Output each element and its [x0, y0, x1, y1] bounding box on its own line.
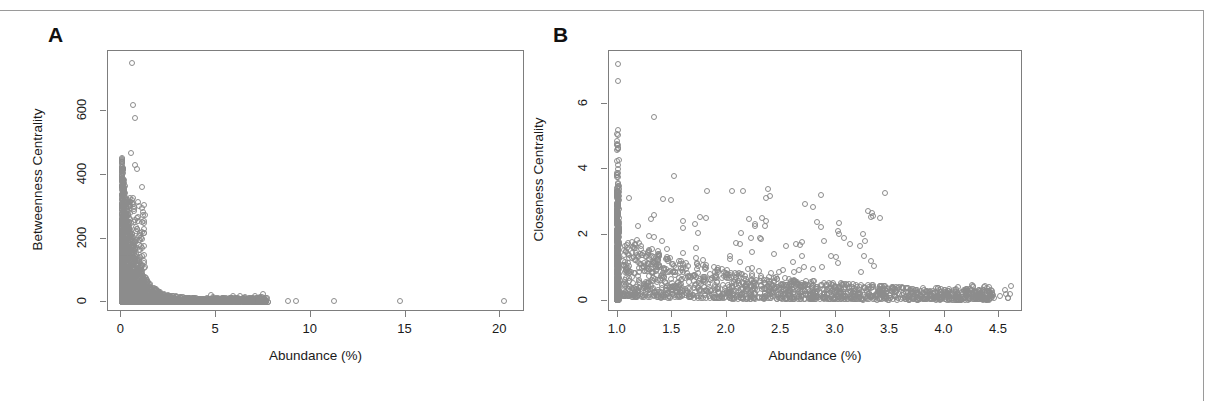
panel-b-y-axis-title: Closeness Centrality	[531, 49, 546, 310]
data-point	[669, 261, 675, 267]
data-point	[240, 296, 246, 302]
data-point	[222, 299, 228, 305]
x-tick-label: 10	[280, 321, 340, 336]
data-point	[122, 259, 128, 265]
data-point	[501, 298, 507, 304]
data-point	[265, 299, 271, 305]
data-point	[615, 174, 621, 180]
data-point	[740, 188, 746, 194]
x-tickmark	[998, 311, 999, 317]
data-point	[685, 263, 691, 269]
y-tick-label: 0	[74, 287, 89, 315]
data-point	[119, 268, 125, 274]
data-point	[676, 275, 682, 281]
data-point	[128, 150, 134, 156]
data-point	[780, 287, 786, 293]
data-point	[789, 296, 795, 302]
data-point	[797, 296, 803, 302]
data-point	[771, 251, 777, 257]
data-point	[701, 284, 707, 290]
data-point	[914, 290, 920, 296]
data-point	[615, 78, 621, 84]
x-tick-label: 0	[90, 321, 150, 336]
data-point	[955, 290, 961, 296]
data-point	[860, 297, 866, 303]
data-point	[141, 230, 147, 236]
data-point	[953, 295, 959, 301]
data-point	[861, 253, 867, 259]
data-point	[679, 293, 685, 299]
x-tickmark	[944, 311, 945, 317]
data-point	[134, 166, 140, 172]
data-point	[635, 223, 641, 229]
data-point	[662, 279, 668, 285]
y-tickmark	[601, 300, 607, 301]
data-point	[135, 297, 141, 303]
y-tick-label: 400	[74, 160, 89, 188]
data-point	[876, 289, 882, 295]
x-tick-label: 4.5	[968, 321, 1028, 336]
x-tickmark	[780, 311, 781, 317]
data-point	[132, 115, 138, 121]
data-point	[759, 215, 765, 221]
y-tick-label: 4	[575, 154, 590, 182]
data-point	[799, 253, 805, 259]
data-point	[727, 293, 733, 299]
data-point	[801, 264, 807, 270]
data-point	[664, 246, 670, 252]
data-point	[397, 298, 403, 304]
y-tickmark	[100, 174, 106, 175]
data-point	[841, 235, 847, 241]
data-point	[660, 196, 666, 202]
x-tick-label: 1.5	[641, 321, 701, 336]
data-point	[858, 269, 864, 275]
x-tick-label: 2.0	[696, 321, 756, 336]
data-point	[860, 231, 866, 237]
data-point	[614, 268, 620, 274]
data-point	[695, 284, 701, 290]
data-point	[745, 266, 751, 272]
figure-top-border	[0, 10, 1204, 11]
y-tickmark	[100, 238, 106, 239]
data-point	[833, 254, 839, 260]
data-point	[793, 241, 799, 247]
data-point	[828, 285, 834, 291]
data-point	[783, 243, 789, 249]
x-tick-label: 4.0	[914, 321, 974, 336]
data-point	[680, 225, 686, 231]
data-point	[673, 283, 679, 289]
y-tick-label: 6	[575, 88, 590, 116]
data-point	[748, 235, 754, 241]
data-point	[746, 216, 752, 222]
data-point	[136, 255, 142, 261]
data-point	[857, 291, 863, 297]
data-point	[714, 279, 720, 285]
data-point	[131, 208, 137, 214]
data-point	[780, 281, 786, 287]
data-point	[702, 274, 708, 280]
data-point	[680, 218, 686, 224]
data-point	[331, 298, 337, 304]
data-point	[626, 195, 632, 201]
data-point	[632, 294, 638, 300]
data-point	[780, 267, 786, 273]
data-point	[615, 202, 621, 208]
data-point	[659, 238, 665, 244]
data-point	[997, 293, 1003, 299]
data-point	[984, 285, 990, 291]
data-point	[743, 276, 749, 282]
data-point	[819, 264, 825, 270]
panel-b-x-axis-title: Abundance (%)	[608, 348, 1022, 363]
data-point	[988, 293, 994, 299]
data-point	[129, 60, 135, 66]
figure-right-border	[1203, 10, 1204, 401]
x-tickmark	[889, 311, 890, 317]
data-point	[979, 294, 985, 300]
data-point	[636, 269, 642, 275]
data-point	[868, 258, 874, 264]
data-point	[615, 146, 621, 152]
x-tick-label: 5	[185, 321, 245, 336]
data-point	[836, 220, 842, 226]
data-point	[878, 283, 884, 289]
panel-b-points	[609, 51, 1021, 310]
